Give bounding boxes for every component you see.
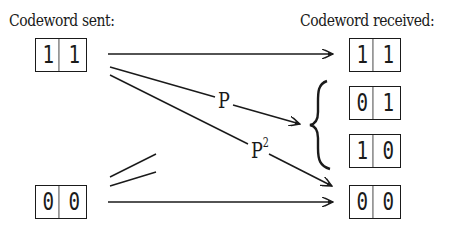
bit: 1 [378,87,398,119]
bit: 1 [378,39,398,71]
bit: 0 [378,135,398,167]
probability-p-label: P [218,88,230,113]
p-symbol: P [218,88,230,113]
sent-codeword-11: 1 1 [35,38,87,72]
received-codeword-00: 0 0 [349,185,401,219]
bit: 1 [39,39,59,71]
bit: 1 [353,39,373,71]
received-codeword-10: 1 0 [349,134,401,168]
p2-symbol: P [251,138,263,163]
probability-p2-label: P2 [251,138,269,163]
bit: 0 [378,186,398,218]
curly-brace [310,81,330,169]
received-codeword-11: 1 1 [349,38,401,72]
edge-11-to-00-b [269,154,332,186]
edge-11-to-single-error-a [110,67,215,97]
bit: 1 [353,135,373,167]
p2-exponent: 2 [263,136,269,150]
bit: 0 [39,186,59,218]
edge-11-to-single-error-b [233,105,300,124]
bit: 0 [353,186,373,218]
sent-heading: Codeword sent: [9,10,115,30]
bit: 0 [353,87,373,119]
bit: 1 [64,39,84,71]
received-codeword-01: 0 1 [349,86,401,120]
sent-codeword-00: 0 0 [35,185,87,219]
bit: 0 [64,186,84,218]
received-heading: Codeword received: [300,10,434,30]
